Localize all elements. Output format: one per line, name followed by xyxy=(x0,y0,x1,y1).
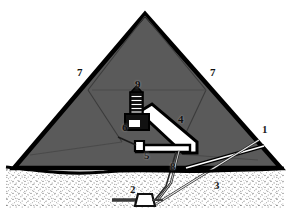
relieving-chambers-stack xyxy=(130,92,143,114)
callout-label-1: 1 xyxy=(262,124,268,135)
kings-chamber-void xyxy=(129,120,140,127)
queens-chamber-block xyxy=(135,141,144,151)
callout-label-7-left: 7 xyxy=(77,67,83,78)
pyramid-section-diagram: 1 2 3 4 5 6 7 7 8 9 xyxy=(0,0,289,218)
pyramid-diagram-canvas xyxy=(0,0,289,218)
callout-label-8: 8 xyxy=(170,161,176,172)
callout-label-7-right: 7 xyxy=(210,67,216,78)
callout-label-4: 4 xyxy=(178,114,184,125)
callout-label-3: 3 xyxy=(214,180,220,191)
callout-label-6: 6 xyxy=(122,122,128,133)
callout-label-5: 5 xyxy=(144,150,150,161)
callout-label-2: 2 xyxy=(130,184,136,195)
callout-label-9: 9 xyxy=(135,79,141,90)
